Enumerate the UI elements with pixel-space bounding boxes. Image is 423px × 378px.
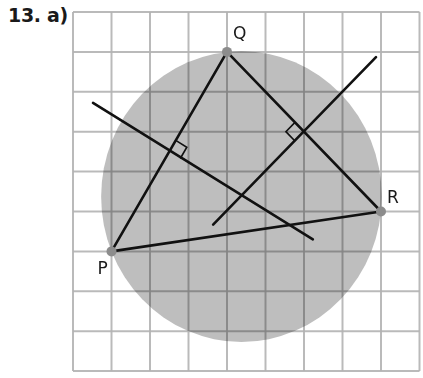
point-label-P: P (98, 258, 108, 278)
point-P (107, 246, 117, 256)
point-Q (222, 47, 232, 57)
point-label-R: R (387, 187, 399, 207)
point-R (376, 207, 386, 217)
geometry-figure: PQR (0, 0, 423, 378)
point-label-Q: Q (233, 23, 246, 43)
